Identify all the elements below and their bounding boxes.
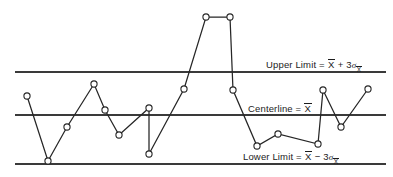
data-point: [338, 124, 344, 130]
data-point: [146, 151, 152, 157]
data-point: [315, 141, 321, 147]
chart-background: [0, 0, 393, 177]
lower-limit-subscript: X: [333, 158, 339, 165]
lower-limit-label-prefix: Lower Limit: [243, 151, 293, 162]
centerline-label-prefix: Centerline: [248, 103, 293, 114]
data-point: [24, 93, 30, 99]
data-point: [181, 86, 187, 92]
lower-limit-operator: −: [315, 151, 321, 162]
upper-limit-label-equals: =: [319, 59, 325, 70]
control-chart: Upper Limit = X + 3σX Centerline = X Low…: [0, 0, 393, 177]
lower-limit-label-equals: =: [296, 151, 302, 162]
centerline-label-equals: =: [296, 103, 302, 114]
upper-limit-label-prefix: Upper Limit: [266, 59, 316, 70]
data-point: [254, 143, 260, 149]
data-point: [146, 105, 152, 111]
upper-limit-operator: +: [338, 59, 344, 70]
data-point: [45, 158, 51, 164]
data-point: [64, 124, 70, 130]
upper-limit-xbar: X: [328, 60, 336, 70]
data-point: [320, 87, 326, 93]
upper-limit-label: Upper Limit = X + 3σX: [266, 60, 362, 72]
lower-limit-xbar: X: [305, 152, 313, 162]
centerline-xbar: X: [304, 104, 312, 114]
data-point: [227, 14, 233, 20]
data-point: [203, 14, 209, 20]
data-point: [230, 87, 236, 93]
lower-limit-label: Lower Limit = X − 3σX: [243, 152, 339, 164]
data-point: [102, 107, 108, 113]
centerline-label: Centerline = X: [248, 104, 312, 114]
data-point: [275, 131, 281, 137]
data-point: [365, 86, 371, 92]
control-chart-canvas: [0, 0, 393, 177]
data-point: [116, 132, 122, 138]
data-point: [91, 81, 97, 87]
upper-limit-subscript: X: [356, 66, 362, 73]
